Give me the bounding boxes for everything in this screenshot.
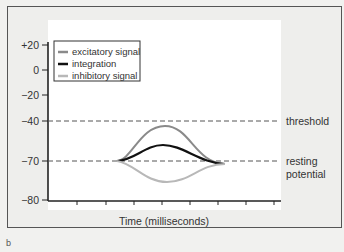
y-tick-label: −40	[21, 115, 39, 127]
legend-label: integration	[72, 58, 116, 69]
resting-label-line1: resting	[286, 155, 318, 167]
panel-letter: b	[6, 238, 11, 248]
y-tick-label: −20	[21, 89, 39, 101]
x-axis-label: Time (milliseconds)	[119, 215, 209, 227]
threshold-label: threshold	[286, 115, 329, 127]
y-tick-label: −80	[21, 194, 39, 206]
y-tick-label: −70	[21, 155, 39, 167]
y-ticks	[42, 45, 48, 200]
y-tick-labels: +20 0 −20 −40 −70 −80	[21, 39, 39, 206]
legend-label: inhibitory signal	[72, 70, 137, 81]
legend: excitatory signal integration inhibitory…	[54, 41, 140, 81]
resting-label-line2: potential	[286, 168, 326, 180]
y-tick-label: 0	[33, 64, 39, 76]
inhibitory-signal-line	[117, 161, 225, 182]
legend-label: excitatory signal	[72, 46, 140, 57]
y-tick-label: +20	[21, 39, 39, 51]
line-chart: +20 0 −20 −40 −70 −80 threshold resting …	[0, 0, 344, 252]
